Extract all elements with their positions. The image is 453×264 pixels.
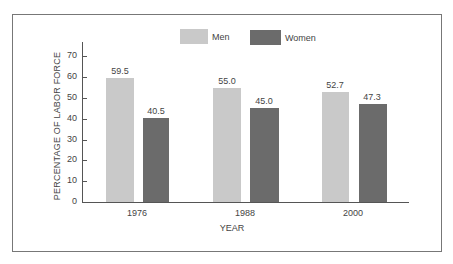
y-axis — [82, 42, 83, 203]
bar-label-women-1988: 45.0 — [244, 96, 284, 106]
x-tick-label-1976: 1976 — [117, 208, 157, 218]
legend-label-women: Women — [285, 33, 316, 43]
y-tick — [82, 202, 87, 203]
bar-men-1988 — [213, 88, 241, 202]
x-tick-label-1988: 1988 — [225, 208, 265, 218]
x-axis-title: YEAR — [220, 223, 245, 233]
bar-label-men-1976: 59.5 — [100, 66, 140, 76]
y-tick-label: 50 — [57, 92, 77, 102]
bar-women-2000 — [359, 104, 387, 202]
bar-label-women-1976: 40.5 — [136, 106, 176, 116]
bar-label-men-1988: 55.0 — [207, 76, 247, 86]
bar-label-men-2000: 52.7 — [315, 80, 355, 90]
y-tick — [82, 181, 87, 182]
y-tick — [82, 140, 87, 141]
y-tick — [82, 56, 87, 57]
x-tick-label-2000: 2000 — [333, 208, 373, 218]
y-tick-label: 30 — [57, 134, 77, 144]
y-tick-label: 60 — [57, 71, 77, 81]
y-tick-label: 40 — [57, 113, 77, 123]
legend-swatch-men — [180, 29, 208, 44]
legend-swatch-women — [250, 30, 281, 45]
y-tick — [82, 98, 87, 99]
bar-men-2000 — [322, 92, 349, 202]
y-tick-label: 20 — [57, 154, 77, 164]
x-axis — [82, 202, 409, 203]
bar-women-1988 — [250, 108, 279, 202]
bar-label-women-2000: 47.3 — [352, 92, 392, 102]
legend-label-men: Men — [212, 32, 230, 42]
y-tick — [82, 160, 87, 161]
bar-men-1976 — [106, 78, 134, 202]
y-tick-label: 0 — [57, 196, 77, 206]
y-tick-label: 10 — [57, 175, 77, 185]
y-tick-label: 70 — [57, 50, 77, 60]
y-tick — [82, 77, 87, 78]
y-tick — [82, 119, 87, 120]
bar-women-1976 — [143, 118, 169, 202]
